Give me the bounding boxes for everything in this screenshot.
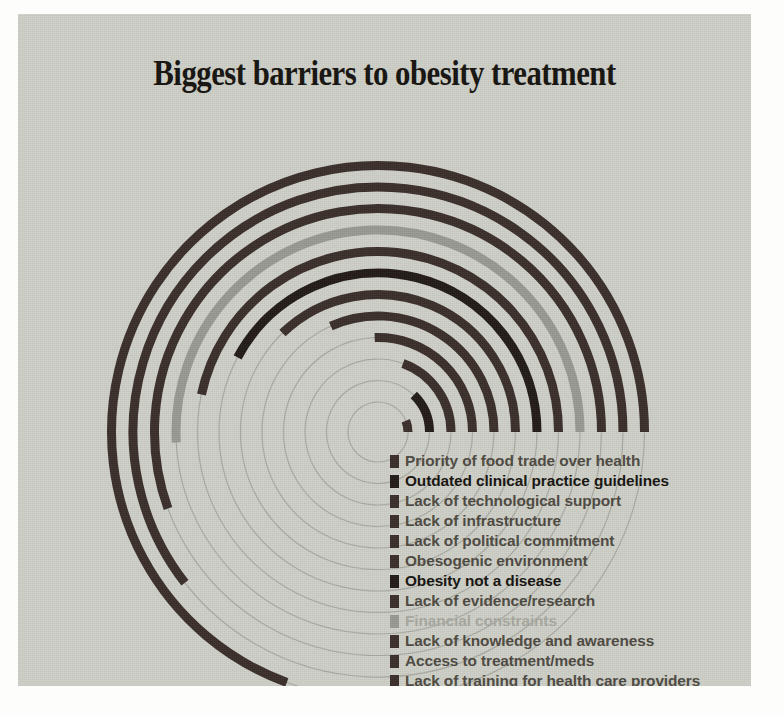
chart-bar[interactable] [406,421,408,432]
legend-color-chip [390,535,399,548]
legend-item-label: Access to treatment/meds [405,653,594,668]
legend-color-chip [390,475,399,488]
legend-item-label: Outdated clinical practice guidelines [405,473,669,488]
legend-item[interactable]: Lack of technological support [390,491,750,511]
legend-color-chip [390,635,399,648]
legend-item-label: Lack of training for health care provide… [405,673,700,686]
legend-item[interactable]: Obesity not a disease [390,571,750,591]
legend-color-chip [390,555,399,568]
legend-item-label: Lack of evidence/research [405,593,595,608]
legend-item-label: Obesogenic environment [405,553,588,568]
legend-item-label: Lack of infrastructure [405,513,561,528]
legend-item-label: Financial constraints [405,613,557,628]
chart-bar[interactable] [414,395,430,432]
legend-color-chip [390,575,399,588]
legend-item-label: Lack of technological support [405,493,621,508]
legend-item[interactable]: Access to treatment/meds [390,651,750,671]
legend-item-label: Obesity not a disease [405,573,561,588]
legend-color-chip [390,675,399,687]
legend-item[interactable]: Obesogenic environment [390,551,750,571]
legend-item[interactable]: Lack of infrastructure [390,511,750,531]
legend-item-label: Lack of political commitment [405,533,614,548]
legend-item-label: Lack of knowledge and awareness [405,633,654,648]
legend-color-chip [390,495,399,508]
legend-item[interactable]: Priority of food trade over health [390,451,750,471]
legend-item[interactable]: Financial constraints [390,611,750,631]
legend-item-label: Priority of food trade over health [405,453,640,468]
legend: Priority of food trade over healthOutdat… [390,451,750,686]
legend-color-chip [390,595,399,608]
legend-item[interactable]: Lack of knowledge and awareness [390,631,750,651]
legend-item[interactable]: Lack of training for health care provide… [390,671,750,686]
legend-color-chip [390,655,399,668]
legend-color-chip [390,515,399,528]
legend-item[interactable]: Lack of political commitment [390,531,750,551]
legend-item[interactable]: Outdated clinical practice guidelines [390,471,750,491]
legend-color-chip [390,615,399,628]
legend-color-chip [390,455,399,468]
chart-panel: Biggest barriers to obesity treatment Pr… [18,14,751,686]
legend-item[interactable]: Lack of evidence/research [390,591,750,611]
